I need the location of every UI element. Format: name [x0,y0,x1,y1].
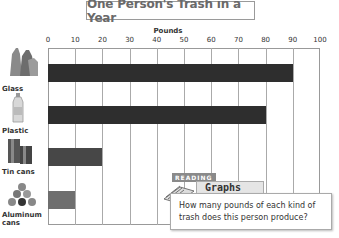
x-tick-label: 50 [180,36,189,44]
x-tick-label: 40 [152,36,161,44]
x-tick-label: 10 [71,36,80,44]
aluminum-cans-icon [6,182,38,210]
question-box: How many pounds of each kind of trash do… [170,193,332,230]
bar-aluminum-cans [48,191,75,209]
x-tick-label: 90 [288,36,297,44]
tin-cans-icon [6,138,36,166]
x-axis-label: Pounds [153,27,182,35]
category-label: Aluminum cans [2,211,42,227]
glass-bottles-icon [6,44,42,80]
x-tick-label: 100 [313,36,326,44]
category-label: Tin cans [2,168,42,176]
plastic-bottle-icon [10,92,26,124]
x-tick-label: 60 [207,36,216,44]
bar-tin-cans [48,148,102,166]
category-label: Plastic [2,127,42,135]
x-tick-label: 30 [125,36,134,44]
x-tick-label: 0 [46,36,50,44]
bar-plastic [48,106,266,124]
bar-glass [48,64,293,82]
x-tick-label: 80 [261,36,270,44]
chart-title: One Person's Trash in a Year [87,0,254,25]
x-tick-label: 20 [98,36,107,44]
chart-title-box: One Person's Trash in a Year [86,1,255,20]
x-tick-label: 70 [234,36,243,44]
